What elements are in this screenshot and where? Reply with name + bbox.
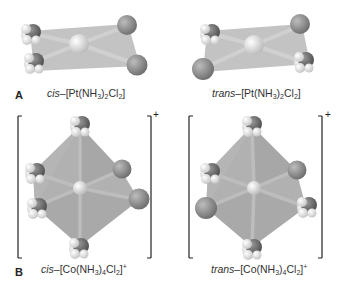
formula-part: Cl bbox=[106, 263, 116, 275]
isomer-prefix: cis bbox=[41, 263, 54, 275]
pt-atom bbox=[244, 35, 264, 55]
cl-ligand bbox=[195, 197, 217, 219]
nh3-ligand bbox=[21, 24, 41, 45]
caption-cis-pt: cis–[Pt(NH3)2Cl2] bbox=[47, 87, 125, 100]
figure-artwork bbox=[0, 0, 348, 290]
nh3-ligand bbox=[242, 239, 262, 260]
isomer-prefix: trans bbox=[212, 87, 235, 99]
cl-ligand bbox=[113, 160, 132, 179]
cl-ligand bbox=[117, 15, 137, 35]
formula-part: –[Pt(NH bbox=[60, 87, 97, 99]
nh3-ligand bbox=[70, 116, 90, 137]
nh3-ligand bbox=[24, 53, 44, 74]
trans-pt-square-planar-model bbox=[192, 14, 314, 80]
superscript-charge: + bbox=[123, 263, 127, 270]
nh3-ligand bbox=[294, 52, 314, 73]
formula-part: –[Pt(NH bbox=[235, 87, 272, 99]
formula-part: –[Co(NH bbox=[234, 263, 275, 275]
formula-part: ] bbox=[298, 87, 301, 99]
bracket-left bbox=[189, 116, 193, 258]
nh3-ligand bbox=[25, 163, 45, 184]
caption-trans-pt: trans–[Pt(NH3)2Cl2] bbox=[212, 87, 301, 100]
co-atom bbox=[247, 181, 261, 195]
bracket-left bbox=[18, 116, 22, 258]
isomer-prefix: trans bbox=[211, 263, 234, 275]
nh3-ligand bbox=[200, 24, 220, 45]
caption-cis-co: cis–[Co(NH3)4Cl2]+ bbox=[41, 263, 127, 276]
cl-ligand bbox=[129, 189, 150, 210]
co-atom bbox=[73, 181, 87, 195]
superscript-charge: + bbox=[303, 263, 307, 270]
nh3-ligand bbox=[69, 238, 89, 259]
cis-co-octahedral-model bbox=[18, 116, 151, 259]
caption-trans-co: trans–[Co(NH3)4Cl2]+ bbox=[211, 263, 307, 276]
nh3-ligand bbox=[200, 163, 220, 184]
pt-atom bbox=[69, 34, 89, 54]
cl-ligand bbox=[290, 14, 310, 34]
isomer-prefix: cis bbox=[47, 87, 60, 99]
panel-letter-b: B bbox=[15, 266, 23, 278]
bracket-right bbox=[147, 116, 151, 258]
nh3-ligand bbox=[27, 198, 47, 219]
bracket-right bbox=[318, 116, 322, 258]
formula-part: Cl bbox=[109, 87, 119, 99]
nh3-ligand bbox=[297, 197, 317, 218]
bracket-charge-cis: + bbox=[153, 109, 159, 120]
formula-part: Cl bbox=[284, 87, 294, 99]
cl-ligand bbox=[288, 161, 307, 180]
formula-part: ] bbox=[122, 87, 125, 99]
cis-pt-square-planar-model bbox=[21, 15, 148, 76]
bracket-charge-trans: + bbox=[325, 109, 331, 120]
trans-co-octahedral-model bbox=[189, 116, 322, 260]
nh3-ligand bbox=[242, 116, 262, 137]
cl-ligand bbox=[127, 55, 148, 76]
panel-letter-a: A bbox=[15, 89, 23, 101]
cl-ligand bbox=[192, 58, 214, 80]
formula-part: –[Co(NH bbox=[54, 263, 95, 275]
formula-part: Cl bbox=[287, 263, 297, 275]
